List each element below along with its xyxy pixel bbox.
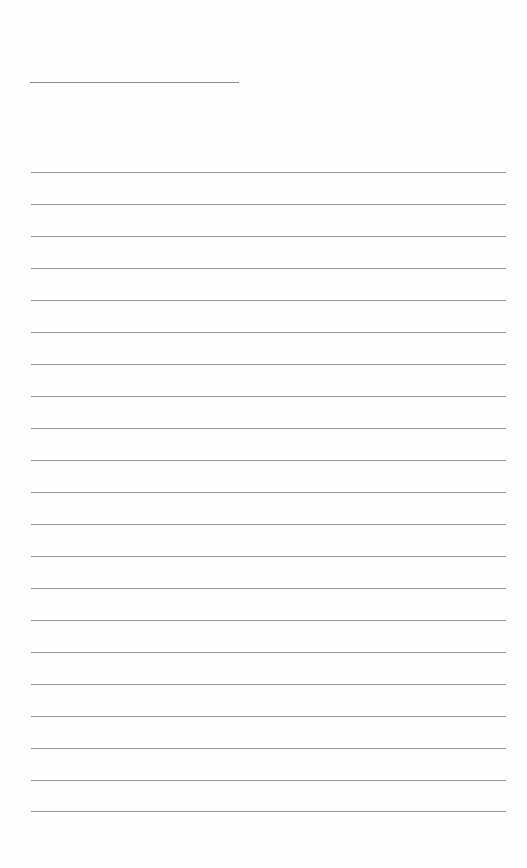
ruled-line [31,268,506,269]
ruled-line [31,492,506,493]
ruled-line [31,556,506,557]
ruled-line [31,748,506,749]
ruled-line [31,811,506,812]
ruled-line [31,236,506,237]
ruled-line [31,300,506,301]
ruled-line [31,332,506,333]
ruled-line [31,364,506,365]
ruled-line [31,524,506,525]
ruled-lines [0,0,527,868]
ruled-line [31,684,506,685]
lined-paper-page [0,0,527,868]
ruled-line [31,780,506,781]
ruled-line [31,652,506,653]
ruled-line [31,172,506,173]
ruled-line [31,588,506,589]
ruled-line [31,460,506,461]
ruled-line [31,396,506,397]
ruled-line [31,204,506,205]
ruled-line [31,428,506,429]
ruled-line [31,716,506,717]
ruled-line [31,620,506,621]
